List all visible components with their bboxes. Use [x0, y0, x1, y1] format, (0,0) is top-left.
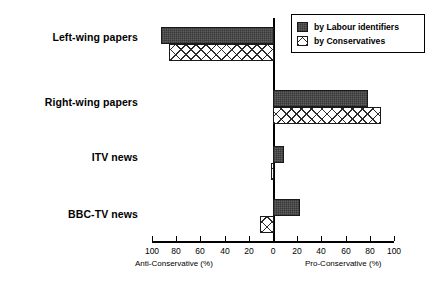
x-tick-mark — [394, 236, 395, 241]
x-tick-label: 20 — [292, 246, 301, 256]
x-tick-label: 60 — [195, 246, 204, 256]
x-tick-mark — [273, 236, 274, 241]
bar-left-wing-papers-conservative — [169, 44, 274, 61]
x-tick-mark — [200, 236, 201, 241]
bar-itv-news-labour — [273, 146, 284, 163]
legend-label-conservatives: by Conservatives — [314, 36, 385, 46]
bar-chart: Left-wing papers Right-wing papers ITV n… — [0, 0, 432, 286]
legend-item-conservatives: by Conservatives — [297, 34, 419, 47]
axis-caption-anti-conservative: Anti-Conservative (%) — [135, 259, 213, 268]
legend: by Labour identifiers by Conservatives — [291, 14, 425, 53]
x-tick-mark — [225, 236, 226, 241]
x-tick-mark — [346, 236, 347, 241]
legend-swatch-crosshatch-icon — [297, 36, 308, 46]
bar-right-wing-papers-labour — [273, 90, 368, 107]
category-label-bbc-tv-news: BBC-TV news — [68, 208, 138, 220]
x-tick-label: 40 — [316, 246, 325, 256]
x-tick-mark — [370, 236, 371, 241]
x-tick-mark — [152, 236, 153, 241]
legend-item-labour: by Labour identifiers — [297, 20, 419, 33]
x-axis: 100 80 60 40 20 0 20 40 60 80 100 — [152, 241, 394, 243]
x-tick-label: 60 — [341, 246, 350, 256]
bar-bbc-tv-news-labour — [273, 199, 300, 216]
legend-swatch-solid-icon — [297, 22, 308, 32]
x-tick-mark — [321, 236, 322, 241]
x-tick-label: 0 — [271, 246, 276, 256]
x-tick-label: 100 — [145, 246, 159, 256]
category-label-itv-news: ITV news — [92, 151, 138, 163]
bar-bbc-tv-news-conservative — [260, 216, 274, 233]
bar-itv-news-conservative — [271, 163, 274, 180]
category-axis-labels: Left-wing papers Right-wing papers ITV n… — [0, 0, 138, 286]
x-tick-mark — [176, 236, 177, 241]
axis-caption-pro-conservative: Pro-Conservative (%) — [305, 259, 381, 268]
bar-right-wing-papers-conservative — [273, 107, 381, 124]
x-tick-mark — [249, 236, 250, 241]
category-label-right-wing-papers: Right-wing papers — [45, 96, 138, 108]
x-tick-label: 100 — [387, 246, 401, 256]
bar-left-wing-papers-labour — [161, 27, 274, 44]
x-tick-label: 40 — [220, 246, 229, 256]
x-tick-label: 80 — [171, 246, 180, 256]
x-tick-label: 80 — [365, 246, 374, 256]
x-tick-mark — [297, 236, 298, 241]
category-label-left-wing-papers: Left-wing papers — [52, 31, 138, 43]
legend-label-labour: by Labour identifiers — [314, 22, 399, 32]
x-tick-label: 20 — [244, 246, 253, 256]
